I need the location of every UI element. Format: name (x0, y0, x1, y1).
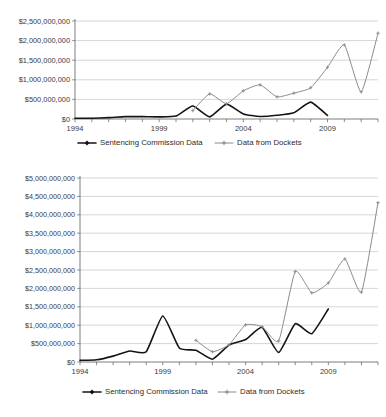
x-axis-label-1994: 1994 (67, 124, 84, 133)
gridlines (80, 178, 378, 344)
legend-label-data-from-dockets: Data from Dockets (237, 138, 302, 147)
chart-top: $0$500,000,000$1,000,000,000$1,500,000,0… (0, 0, 386, 160)
chart-top-canvas: $0$500,000,000$1,000,000,000$1,500,000,0… (0, 0, 386, 160)
x-axis-label-1994: 1994 (72, 367, 89, 376)
y-axis-label-1: $500,000,000 (31, 339, 75, 348)
x-axis-label-1999: 1999 (151, 124, 168, 133)
series-sentencing-commission-data (75, 0, 328, 118)
data-point (211, 350, 214, 353)
y-axis-label-5: $2,500,000,000 (25, 266, 75, 275)
y-axis-label-10: $5,000,000,000 (25, 174, 75, 183)
figure-stack: $0$500,000,000$1,000,000,000$1,500,000,0… (0, 0, 386, 417)
legend: Sentencing Commission DataData from Dock… (78, 138, 302, 147)
legend-label-sentencing-commission-data: Sentencing Commission Data (100, 138, 203, 147)
x-axis: 1994199920042009 (67, 119, 378, 133)
y-axis-label-3: $1,500,000,000 (19, 56, 70, 65)
x-axis: 1994199920042009 (72, 362, 378, 376)
series-line-1 (193, 33, 378, 110)
x-axis-label-2009: 2009 (320, 367, 337, 376)
y-axis-label-9: $4,500,000,000 (25, 192, 75, 201)
chart-bottom-canvas: $0$500,000,000$1,000,000,000$1,500,000,0… (0, 160, 386, 417)
series-line-1 (196, 203, 378, 352)
series-line-0 (75, 102, 328, 118)
y-axis-label-4: $2,000,000,000 (25, 284, 75, 293)
y-axis-label-1: $500,000,000 (25, 95, 70, 104)
legend-label-data-from-dockets: Data from Dockets (240, 387, 305, 396)
data-point (360, 290, 363, 293)
legend-marker-a (85, 141, 90, 146)
data-point (275, 95, 278, 98)
chart-bottom: $0$500,000,000$1,000,000,000$1,500,000,0… (0, 160, 386, 417)
y-axis-label-6: $3,000,000,000 (25, 247, 75, 256)
y-axis-label-3: $1,500,000,000 (25, 302, 75, 311)
series-data-from-dockets (191, 31, 380, 112)
x-axis-label-2004: 2004 (237, 367, 254, 376)
y-axis-label-0: $0 (62, 115, 70, 124)
y-axis: $0$500,000,000$1,000,000,000$1,500,000,0… (25, 174, 80, 367)
y-axis-label-0: $0 (67, 358, 75, 367)
series-line-0 (80, 309, 328, 360)
y-axis-label-5: $2,500,000,000 (19, 17, 70, 26)
legend-label-sentencing-commission-data: Sentencing Commission Data (105, 387, 208, 396)
y-axis-label-7: $3,500,000,000 (25, 229, 75, 238)
series-sentencing-commission-data (80, 160, 328, 360)
y-axis-label-8: $4,000,000,000 (25, 210, 75, 219)
y-axis-label-2: $1,000,000,000 (25, 321, 75, 330)
data-point (258, 83, 261, 86)
x-axis-label-2004: 2004 (235, 124, 252, 133)
y-axis-label-2: $1,000,000,000 (19, 75, 70, 84)
data-point (376, 31, 379, 34)
legend-marker-a (90, 390, 95, 395)
data-point (376, 201, 379, 204)
x-axis-label-2009: 2009 (319, 124, 336, 133)
x-axis-label-1999: 1999 (154, 367, 171, 376)
y-axis-label-4: $2,000,000,000 (19, 36, 70, 45)
legend: Sentencing Commission DataData from Dock… (83, 387, 305, 396)
y-axis: $0$500,000,000$1,000,000,000$1,500,000,0… (19, 17, 75, 124)
series-data-from-dockets (194, 201, 380, 353)
data-point (292, 91, 295, 94)
